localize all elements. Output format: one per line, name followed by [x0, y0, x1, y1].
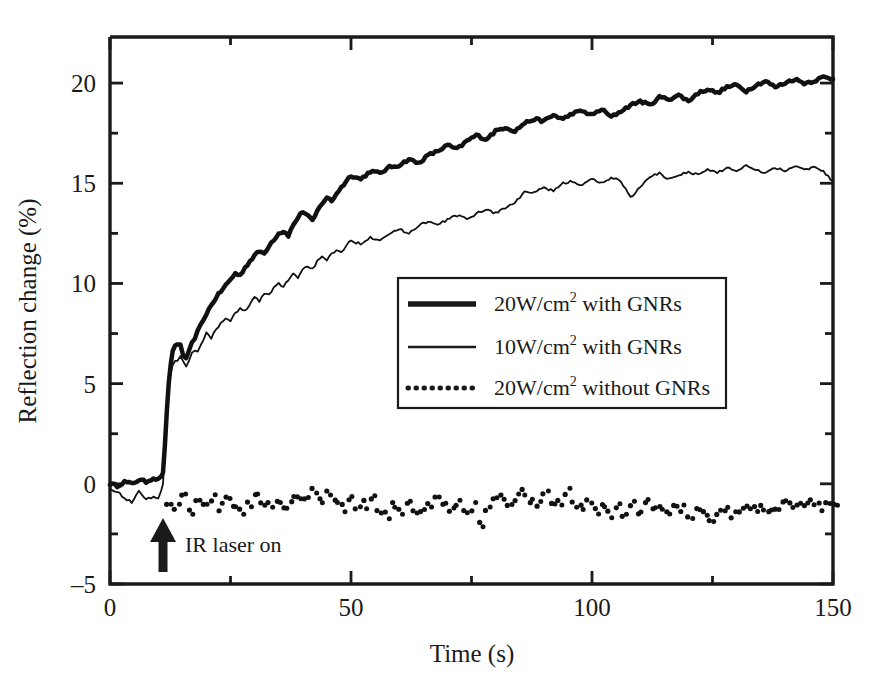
x-tick-label: 100 [573, 594, 611, 621]
y-tick-label: 15 [71, 170, 96, 197]
y-tick-label: 5 [84, 371, 97, 398]
y-tick-label: 0 [84, 471, 97, 498]
legend-item-label: 10W/cm2 with GNRs [494, 333, 682, 359]
x-tick-label: 0 [104, 594, 117, 621]
legend-item-label: 20W/cm2 without GNRs [494, 374, 710, 400]
y-axis-title: Reflection change (%) [14, 199, 42, 424]
y-tick-label: 10 [71, 270, 96, 297]
chart-legend: 20W/cm2 with GNRs10W/cm2 with GNRs20W/cm… [398, 278, 726, 408]
x-tick-label: 150 [814, 594, 852, 621]
y-tick-label: 20 [71, 70, 96, 97]
reflection-change-chart: –505101520050100150 IR laser on 20W/cm2 … [0, 0, 884, 682]
x-tick-label: 50 [339, 594, 364, 621]
x-axis-title: Time (s) [430, 640, 515, 668]
ir-laser-on-label: IR laser on [185, 532, 282, 557]
chart-figure: –505101520050100150 IR laser on 20W/cm2 … [0, 0, 884, 682]
y-tick-label: –5 [70, 571, 96, 598]
legend-item-label: 20W/cm2 with GNRs [494, 290, 682, 316]
